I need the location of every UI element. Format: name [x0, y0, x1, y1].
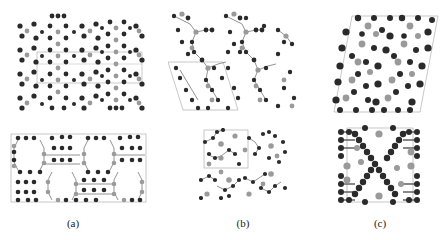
crystal-structure-a-top [12, 12, 147, 112]
panel-a-label: (a) [53, 217, 93, 229]
panel-c-bottom [337, 124, 421, 206]
crystal-structure-b-top [168, 10, 300, 114]
crystal-structure-c-bottom [337, 124, 421, 206]
crystal-structure-b-bottom [199, 128, 289, 200]
crystal-structure-c-top [332, 14, 440, 114]
panel-b-top [168, 10, 300, 114]
panel-b-bottom [199, 128, 289, 200]
panel-c-top [332, 14, 440, 114]
panel-a-bottom [10, 132, 148, 204]
panel-b-label: (b) [223, 217, 263, 229]
crystal-structure-a-bottom [10, 132, 148, 204]
panel-a-top [12, 12, 147, 112]
panel-c-label: (c) [360, 217, 400, 229]
